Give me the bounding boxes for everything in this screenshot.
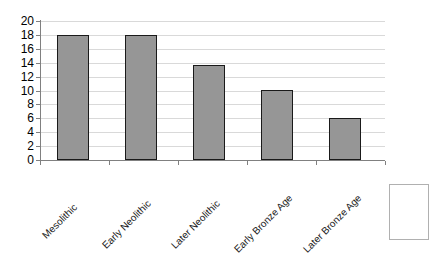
y-axis-tick-label: 4 [27,126,34,138]
x-tick-mark [40,161,41,165]
y-tick-mark [36,63,40,64]
x-tick-mark [316,161,317,165]
y-tick-mark [36,118,40,119]
y-tick-mark [36,132,40,133]
bar-early-bronze-age [261,90,293,160]
x-axis-label-mesolithic: Mesolithic [40,202,79,241]
y-axis-tick-label: 20 [21,15,34,27]
y-tick-mark [36,21,40,22]
bar-early-neolithic [125,35,157,160]
y-tick-mark [36,91,40,92]
y-axis-line [40,20,41,161]
x-axis-label-later-neolithic: Later Neolithic [169,198,222,251]
y-tick-mark [36,35,40,36]
y-axis-tick-label: 0 [27,154,34,166]
y-axis-tick-label: 12 [21,71,34,83]
y-axis-tick-label: 10 [21,85,34,97]
x-tick-mark [385,161,386,165]
x-axis-label-early-bronze-age: Early Bronze Age [232,192,294,254]
gridline-16 [40,49,385,50]
x-axis-line [40,160,385,161]
y-axis-tick-label: 6 [27,112,34,124]
bar-later-bronze-age [329,118,361,160]
gridline-14 [40,63,385,64]
x-tick-mark [178,161,179,165]
x-axis-label-later-bronze-age: Later Bronze Age [301,192,363,254]
y-axis-tick-label: 14 [21,57,34,69]
gridline-18 [40,35,385,36]
y-tick-mark [36,146,40,147]
x-axis-label-early-neolithic: Early Neolithic [100,198,153,251]
bar-mesolithic [57,35,89,160]
y-axis-tick-label: 16 [21,43,34,55]
y-tick-mark [36,104,40,105]
legend-box [389,184,429,240]
y-axis-tick-label: 8 [27,98,34,110]
y-axis-tick-label: 2 [27,140,34,152]
bar-later-neolithic [193,65,225,160]
gridline-20 [40,21,385,22]
plot-area [40,21,385,160]
y-axis-tick-label: 18 [21,29,34,41]
y-tick-mark [36,77,40,78]
y-tick-mark [36,49,40,50]
x-tick-mark [109,161,110,165]
x-tick-mark [247,161,248,165]
